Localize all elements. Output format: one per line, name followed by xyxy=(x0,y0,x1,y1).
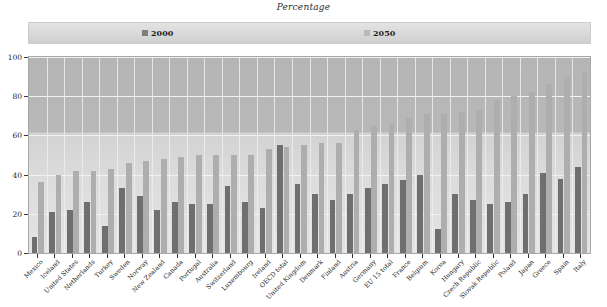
bar-2050[interactable] xyxy=(441,114,447,253)
bar-2050[interactable] xyxy=(494,100,500,253)
bar-2050[interactable] xyxy=(56,175,62,253)
y-axis-tick-label: 100 xyxy=(8,53,22,62)
y-axis-tick-label: 0 xyxy=(17,249,22,258)
y-axis: 020406080100 xyxy=(0,56,28,254)
bar-group[interactable] xyxy=(345,57,363,253)
bar-2050[interactable] xyxy=(459,112,465,253)
bar-2000[interactable] xyxy=(540,173,546,253)
bar-group[interactable] xyxy=(239,57,257,253)
bar-2050[interactable] xyxy=(284,147,290,253)
bar-2050[interactable] xyxy=(38,182,44,253)
legend-swatch-icon-2000 xyxy=(142,30,148,36)
bar-group[interactable] xyxy=(274,57,292,253)
bar-group[interactable] xyxy=(187,57,205,253)
bar-group[interactable] xyxy=(380,57,398,253)
bar-group[interactable] xyxy=(169,57,187,253)
bar-group[interactable] xyxy=(47,57,65,253)
bar-group[interactable] xyxy=(432,57,450,253)
bar-group[interactable] xyxy=(467,57,485,253)
bar-group[interactable] xyxy=(485,57,503,253)
bar-group[interactable] xyxy=(99,57,117,253)
legend-label-2050: 2050 xyxy=(373,28,395,38)
x-axis-labels: MexicoIcelandUnited StatesNetherlandsTur… xyxy=(28,258,591,307)
bar-group[interactable] xyxy=(397,57,415,253)
bar-2050[interactable] xyxy=(354,130,360,253)
bar-group[interactable] xyxy=(537,57,555,253)
chart-legend: 2000 2050 xyxy=(28,22,591,44)
bar-2050[interactable] xyxy=(126,163,132,253)
legend-swatch-icon-2050 xyxy=(364,30,370,36)
bar-group[interactable] xyxy=(292,57,310,253)
bar-2050[interactable] xyxy=(73,171,79,253)
y-axis-tick-label: 60 xyxy=(12,131,22,140)
bar-group[interactable] xyxy=(555,57,573,253)
bar-2000[interactable] xyxy=(575,167,581,253)
bar-group[interactable] xyxy=(310,57,328,253)
bar-2050[interactable] xyxy=(546,84,552,253)
y-axis-tick-label: 80 xyxy=(12,92,22,101)
bar-group[interactable] xyxy=(257,57,275,253)
bar-2000[interactable] xyxy=(32,237,38,253)
bar-2050[interactable] xyxy=(476,110,482,253)
y-axis-tick-label: 40 xyxy=(12,170,22,179)
chart-plot xyxy=(28,56,591,254)
bar-group[interactable] xyxy=(29,57,47,253)
bar-2050[interactable] xyxy=(406,118,412,253)
bar-2050[interactable] xyxy=(196,155,202,253)
legend-item-2050: 2050 xyxy=(364,28,395,38)
bar-group[interactable] xyxy=(82,57,100,253)
bar-group[interactable] xyxy=(362,57,380,253)
bar-2050[interactable] xyxy=(582,73,588,253)
y-axis-tick-label: 20 xyxy=(12,209,22,218)
bar-group[interactable] xyxy=(222,57,240,253)
bar-2050[interactable] xyxy=(424,114,430,253)
bar-group[interactable] xyxy=(415,57,433,253)
legend-item-2000: 2000 xyxy=(142,28,173,38)
bar-group[interactable] xyxy=(152,57,170,253)
bar-group[interactable] xyxy=(572,57,590,253)
plot-area xyxy=(28,56,591,254)
bar-group[interactable] xyxy=(134,57,152,253)
bar-group[interactable] xyxy=(64,57,82,253)
bar-2050[interactable] xyxy=(371,126,377,253)
legend-label-2000: 2000 xyxy=(151,28,173,38)
page-title: Percentage xyxy=(0,2,607,12)
bar-group[interactable] xyxy=(450,57,468,253)
bar-group[interactable] xyxy=(204,57,222,253)
bar-2050[interactable] xyxy=(389,124,395,253)
bar-2050[interactable] xyxy=(564,77,570,253)
bar-group[interactable] xyxy=(117,57,135,253)
